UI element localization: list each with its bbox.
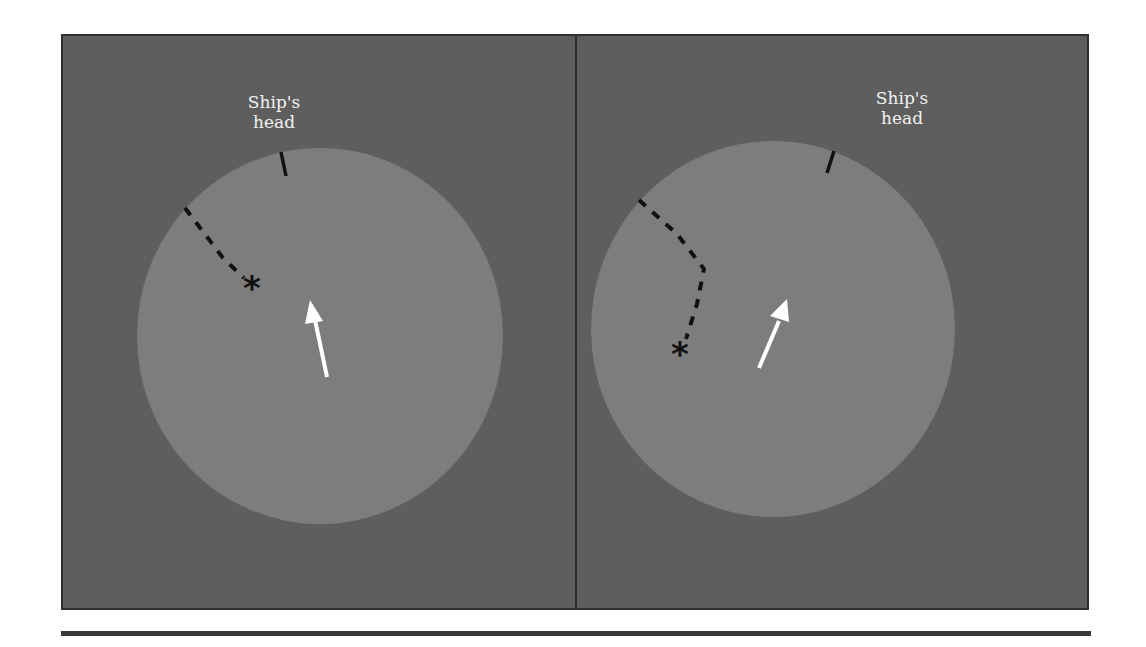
label-line-1: Ship's [857,88,947,108]
radar-comparison-figure: * Ship's head * Ship's head [61,34,1089,610]
label-line-2: head [229,112,319,132]
right-radar-display: * [577,36,1091,612]
radar-disc [591,141,955,517]
label-line-1: Ship's [229,92,319,112]
ships-head-label: Ship's head [229,92,319,132]
target-asterisk-icon: * [671,334,689,374]
right-radar-panel: * Ship's head [575,34,1089,610]
left-radar-display: * [63,36,579,612]
left-radar-panel: * Ship's head [61,34,577,610]
label-line-2: head [857,108,947,128]
target-asterisk-icon: * [243,268,261,308]
bottom-rule [61,631,1091,636]
ships-head-label: Ship's head [857,88,947,128]
